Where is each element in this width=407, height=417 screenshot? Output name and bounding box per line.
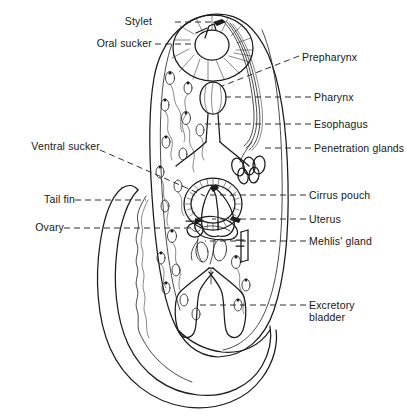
- label-uterus: Uterus: [309, 213, 341, 225]
- mehlis-gland: [236, 230, 248, 262]
- prepharynx: [224, 22, 263, 150]
- leader-lines: [64, 22, 311, 305]
- label-prepharynx: Prepharynx: [302, 51, 357, 63]
- label-pharynx: Pharynx: [314, 91, 354, 103]
- label-excretory-bladder: Excretory bladder: [309, 299, 355, 323]
- label-ovary: Ovary: [14, 221, 64, 233]
- pharynx: [200, 82, 226, 114]
- label-oral-sucker: Oral sucker: [38, 37, 152, 49]
- label-stylet: Stylet: [78, 15, 152, 27]
- label-ventral-sucker: Ventral sucker: [8, 140, 100, 152]
- label-penetration-glands: Penetration glands: [314, 142, 404, 154]
- excretory-bladder: [175, 268, 246, 338]
- label-cirrus-pouch: Cirrus pouch: [309, 189, 370, 201]
- vitelline-ducts: [191, 238, 227, 264]
- diagram-canvas: .ink { fill:none; stroke:#1a1a1a; stroke…: [0, 0, 407, 417]
- label-esophagus: Esophagus: [314, 118, 368, 130]
- leader-prepharynx: [222, 56, 299, 86]
- penetration-glands: [230, 142, 267, 185]
- label-tail-fin: Tail fin: [13, 193, 75, 205]
- ventral-sucker: [184, 178, 242, 230]
- label-mehlis-gland: Mehlis' gland: [309, 235, 372, 247]
